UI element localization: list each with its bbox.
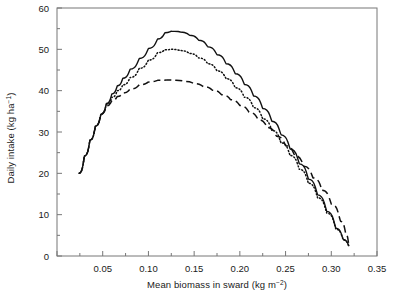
y-axis-title: Daily intake (kg ha−1) [5,92,16,183]
x-tick-label: 0.35 [368,263,387,274]
y-tick-label: 20 [38,168,49,179]
y-tick-label: 0 [44,251,49,262]
x-tick-label: 0.10 [139,263,158,274]
series-line-solid [79,31,349,246]
y-axis-tick-labels: 0102030405060 [38,3,49,262]
y-tick-label: 40 [38,85,49,96]
x-tick-label: 0.15 [185,263,204,274]
x-tick-label: 0.30 [322,263,341,274]
plot-frame [57,8,377,256]
y-tick-label: 30 [38,127,49,138]
x-tick-label: 0.05 [93,263,112,274]
y-tick-label: 50 [38,44,49,55]
line-chart: 0.050.100.150.200.250.300.35 01020304050… [0,0,395,297]
x-tick-label: 0.20 [231,263,250,274]
series-line-dashed [79,80,349,244]
plot-border [57,8,377,256]
y-tick-label: 10 [38,209,49,220]
chart-figure: 0.050.100.150.200.250.300.35 01020304050… [0,0,395,297]
data-series-group [79,31,349,246]
y-tick-label: 60 [38,3,49,14]
x-tick-label: 0.25 [276,263,295,274]
y-axis-ticks [57,8,62,256]
x-axis-title: Mean biomass in sward (kg m−2) [147,279,287,290]
series-line-dotted [79,49,349,245]
x-axis-ticks [57,251,377,256]
x-axis-tick-labels: 0.050.100.150.200.250.300.35 [93,263,386,274]
